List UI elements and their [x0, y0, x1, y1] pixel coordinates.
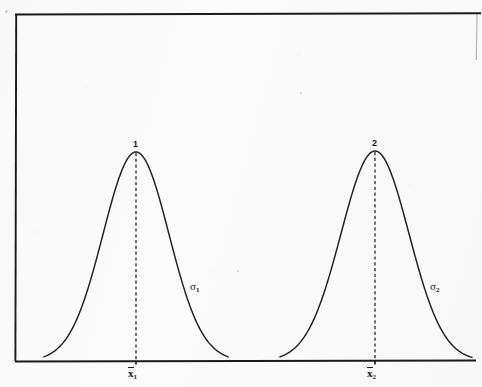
distribution-plot — [0, 0, 482, 387]
x-bar-2-glyph: x — [367, 367, 373, 379]
figure-root: 1 2 σ1 σ2 x1 x2 — [0, 0, 482, 387]
x-bar-2-subscript: 2 — [373, 373, 377, 381]
curve-2-sigma-label: σ2 — [430, 281, 439, 294]
normal-curve-2 — [280, 151, 472, 357]
frame-left-border — [15, 14, 16, 361]
curve-2-peak-number: 2 — [372, 139, 377, 148]
frame-top-border — [15, 13, 481, 14]
sigma-2-subscript: 2 — [436, 286, 440, 294]
sigma-1-subscript: 1 — [196, 286, 200, 294]
x-axis-baseline — [15, 361, 476, 362]
curve-1-peak-number: 1 — [133, 140, 138, 149]
curve-1-sigma-label: σ1 — [190, 281, 199, 294]
frame-right-border — [476, 14, 477, 61]
curve-2-mean-axis-label: x2 — [367, 367, 376, 381]
curve-1-mean-axis-label: x1 — [128, 367, 137, 381]
x-bar-1-glyph: x — [128, 367, 134, 379]
x-bar-1-subscript: 1 — [134, 373, 138, 381]
